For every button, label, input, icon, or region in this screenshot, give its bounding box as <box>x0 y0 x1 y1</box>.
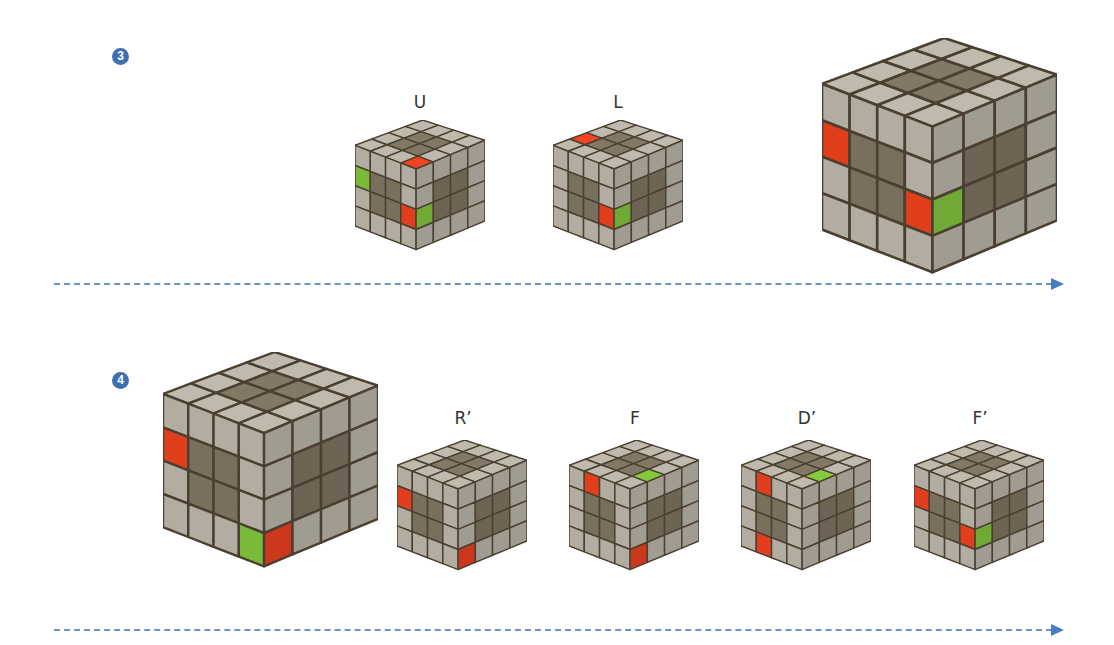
move-label-f-prime: F’ <box>950 408 1010 428</box>
step-number-badge: 3 <box>112 48 129 65</box>
cube-after-l <box>553 120 683 260</box>
arrow-head-icon <box>1051 278 1064 290</box>
progress-arrow-step-4 <box>54 624 1064 636</box>
cube-after-r-prime <box>397 440 527 580</box>
move-label-l: L <box>588 92 648 112</box>
cube-after-f <box>569 440 699 580</box>
cube-start-step-4 <box>163 352 378 584</box>
progress-arrow-step-3 <box>54 278 1064 290</box>
dashed-line <box>54 283 1052 285</box>
cube-result-step-3 <box>822 38 1057 292</box>
move-label-f: F <box>605 408 665 428</box>
cube-after-f-prime <box>914 440 1044 580</box>
dashed-line <box>54 629 1052 631</box>
arrow-head-icon <box>1051 624 1064 636</box>
move-label-u: U <box>390 92 450 112</box>
move-label-r-prime: R’ <box>433 408 493 428</box>
move-label-d-prime: D’ <box>777 408 837 428</box>
cube-after-d-prime <box>741 440 871 580</box>
step-number-badge: 4 <box>112 372 129 389</box>
cube-after-u <box>355 120 485 260</box>
